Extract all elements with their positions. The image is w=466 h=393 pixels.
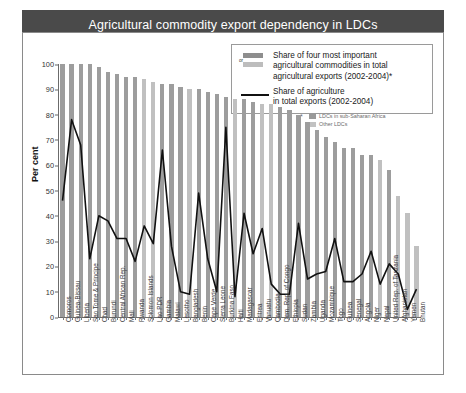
x-tick-mark <box>271 317 272 320</box>
x-tick-mark <box>63 317 64 320</box>
x-tick-mark <box>298 317 299 320</box>
x-tick-mark <box>353 317 354 320</box>
x-tick-label: United Rep. of Tanzania <box>392 255 399 322</box>
x-tick-mark <box>190 317 191 320</box>
x-tick-mark <box>416 317 417 320</box>
x-tick-mark <box>380 317 381 320</box>
x-tick-mark <box>335 317 336 320</box>
x-tick-mark <box>226 317 227 320</box>
x-tick-mark <box>389 317 390 320</box>
x-tick-mark <box>199 317 200 320</box>
x-tick-mark <box>117 317 118 320</box>
x-tick-mark <box>90 317 91 320</box>
x-tick-mark <box>308 317 309 320</box>
x-tick-mark <box>326 317 327 320</box>
line-path <box>63 120 417 310</box>
x-tick-mark <box>135 317 136 320</box>
x-tick-mark <box>181 317 182 320</box>
chart-figure: Agricultural commodity export dependency… <box>0 0 466 393</box>
plot-area: Per cent 0102030405060708090100 ComorosG… <box>22 32 444 375</box>
x-tick-mark <box>317 317 318 320</box>
x-tick-mark <box>144 317 145 320</box>
x-tick-mark <box>244 317 245 320</box>
x-tick-mark <box>153 317 154 320</box>
x-tick-mark <box>253 317 254 320</box>
x-tick-mark <box>362 317 363 320</box>
x-tick-mark <box>126 317 127 320</box>
x-tick-mark <box>262 317 263 320</box>
x-tick-mark <box>407 317 408 320</box>
x-tick-mark <box>398 317 399 320</box>
line-series <box>22 32 444 375</box>
x-tick-label: Dem. Rep. of Congo <box>283 265 290 322</box>
x-tick-label: Central African Rep. <box>119 266 126 322</box>
x-tick-mark <box>162 317 163 320</box>
x-tick-mark <box>171 317 172 320</box>
x-tick-label: Bhutan <box>419 302 426 322</box>
x-tick-label: Solomon Islands <box>147 275 154 322</box>
x-tick-mark <box>208 317 209 320</box>
x-tick-mark <box>235 317 236 320</box>
x-tick-mark <box>72 317 73 320</box>
x-tick-label: Sao Tome & Principe <box>92 263 99 322</box>
x-tick-label: Haiti <box>237 309 244 322</box>
x-tick-mark <box>289 317 290 320</box>
x-tick-mark <box>81 317 82 320</box>
x-tick-mark <box>217 317 218 320</box>
x-tick-mark <box>108 317 109 320</box>
x-tick-mark <box>99 317 100 320</box>
x-tick-label: Guinea-Bissau <box>74 281 81 322</box>
x-tick-mark <box>344 317 345 320</box>
page-title: Agricultural commodity export dependency… <box>89 18 378 32</box>
x-tick-mark <box>371 317 372 320</box>
x-tick-mark <box>280 317 281 320</box>
